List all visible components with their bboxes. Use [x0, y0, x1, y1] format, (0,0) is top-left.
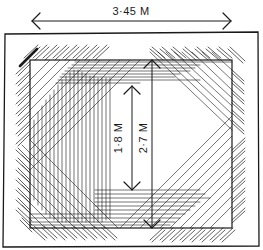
woven-vertical-threads — [34, 70, 110, 222]
hatch-strokes-outer — [16, 45, 245, 242]
room-plan-diagram: 3·45 M — [0, 0, 263, 250]
width-label: 3·45 M — [112, 5, 149, 17]
woven-diagonal-bottom-right — [110, 108, 240, 238]
inner-height-label: 1·8 M — [112, 123, 124, 154]
width-dimension: 3·45 M — [32, 5, 231, 29]
outer-height-dimension: 2·7 M — [137, 60, 160, 228]
inner-height-dimension: 1·8 M — [112, 86, 140, 190]
woven-diagonal-top-right — [150, 52, 232, 130]
outer-height-label: 2·7 M — [137, 123, 149, 154]
woven-diagonal-top-left — [20, 50, 150, 180]
